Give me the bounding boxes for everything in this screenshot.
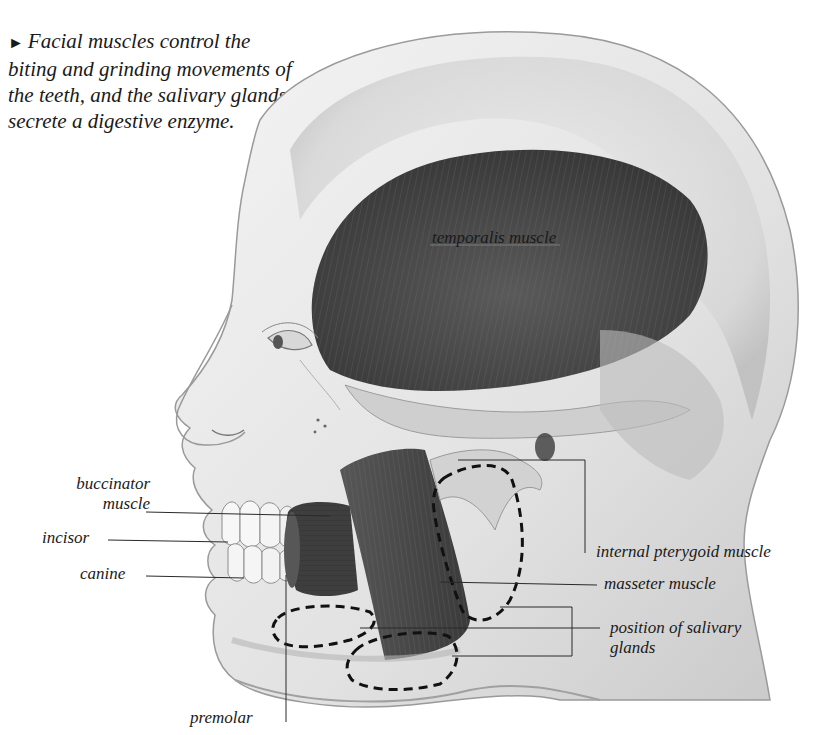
label-internal-pterygoid-muscle: internal pterygoid muscle xyxy=(596,542,771,562)
label-masseter-muscle: masseter muscle xyxy=(604,574,716,594)
label-canine: canine xyxy=(80,564,125,584)
label-buccinator-muscle: buccinator muscle xyxy=(70,474,150,514)
label-premolar: premolar xyxy=(190,708,253,728)
label-incisor: incisor xyxy=(42,528,89,548)
label-salivary-glands: position of salivary glands xyxy=(610,618,750,658)
label-temporalis-muscle: temporalis muscle xyxy=(432,228,556,248)
teeth xyxy=(222,501,294,583)
